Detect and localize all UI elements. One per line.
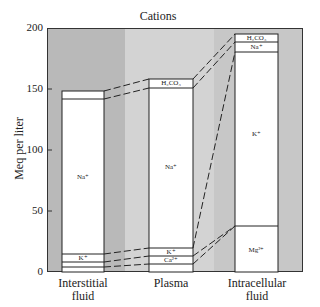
label-intracellular-h2co3: H₂CO₃	[235, 34, 278, 42]
label-intracellular-k: K⁺	[235, 130, 278, 138]
x-label-intracellular-line2: fluid	[221, 290, 293, 303]
connectors-interstitial-plasma	[104, 79, 149, 267]
label-intracellular-na: Na⁺	[235, 43, 278, 51]
label-plasma-k: K⁺	[149, 248, 193, 256]
bar-interstitial	[62, 91, 104, 272]
x-label-plasma: Plasma	[136, 277, 206, 290]
label-intracellular-mg: Mg²⁺	[235, 246, 278, 254]
x-label-intracellular: Intracellular fluid	[221, 277, 293, 303]
x-label-interstitial: Interstitial fluid	[48, 277, 118, 303]
bar-intracellular	[235, 34, 278, 272]
label-plasma-ca: Ca²⁺	[149, 256, 193, 264]
x-label-interstitial-line2: fluid	[48, 290, 118, 303]
label-interstitial-k: K⁺	[62, 254, 104, 262]
label-plasma-h2co3: H₂CO₃	[149, 79, 193, 87]
y-ticks	[47, 89, 52, 211]
x-label-plasma-line1: Plasma	[136, 277, 206, 290]
label-interstitial-na: Na⁺	[62, 173, 104, 181]
bar-plasma	[149, 79, 193, 272]
connectors-plasma-intracellular	[193, 34, 235, 264]
label-plasma-na: Na⁺	[149, 163, 193, 171]
